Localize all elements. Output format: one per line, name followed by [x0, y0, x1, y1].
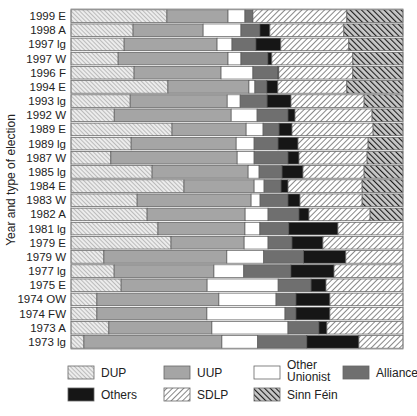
bar-segment-sf [349, 38, 403, 51]
bar-segment-ou [228, 10, 245, 23]
bar-segment-dup [71, 321, 109, 334]
legend-item-ou: OtherUnionist [254, 358, 331, 384]
bar-segment-sf [372, 109, 403, 122]
bar-segment-others [291, 265, 334, 278]
bar-segment-others [289, 222, 338, 235]
bar-segment-alliance [260, 194, 288, 207]
bar-segment-sdlp [346, 251, 403, 264]
bar-segment-alliance [240, 95, 267, 108]
bar-segment-dup [71, 151, 111, 164]
bar-segment-sf [364, 166, 403, 179]
bar-segment-uup [147, 208, 245, 221]
legend-swatch-alliance [343, 366, 369, 379]
bar-segment-dup [71, 24, 133, 37]
category-label: 1992 W [26, 109, 66, 121]
bar-segment-sdlp [298, 137, 368, 150]
bar-segment-sdlp [292, 123, 373, 136]
bar-segment-uup [114, 109, 231, 122]
bar-segment-dup [71, 279, 121, 292]
bar-segment-ou [203, 24, 241, 37]
legend-label: Unionist [287, 370, 331, 384]
bar-segment-ou [246, 123, 263, 136]
bar-segment-sf [373, 123, 403, 136]
bar-segment-uup [172, 123, 246, 136]
bar-segment-dup [71, 123, 172, 136]
legend-label: Sinn Féin [287, 388, 338, 402]
bar-segment-others [260, 24, 270, 37]
bar-segment-ou [228, 52, 241, 65]
bar-segment-alliance [254, 151, 288, 164]
bar-segment-dup [71, 10, 167, 23]
bar-segment-alliance [268, 236, 292, 249]
bar-segment-others [267, 95, 291, 108]
bar-segment-others [296, 293, 330, 306]
bar-segment-uup [133, 24, 203, 37]
bar-segment-dup [71, 81, 168, 94]
bar-segment-ou [207, 307, 285, 320]
category-label: 1989 lg [28, 138, 66, 150]
bar-segment-sdlp [288, 180, 362, 193]
bar-segment-uup [97, 307, 207, 320]
bar-segment-uup [134, 66, 221, 79]
legend-swatch-sdlp [164, 388, 190, 401]
category-label: 1979 E [30, 237, 67, 249]
legend-label: Others [101, 388, 137, 402]
bar-segment-dup [71, 109, 114, 122]
bar-segment-ou [254, 180, 264, 193]
bar-segment-alliance [253, 66, 278, 79]
bars-group [71, 10, 403, 348]
category-label: 1975 E [30, 279, 67, 291]
legend-item-dup: DUP [68, 366, 126, 380]
bar-segment-sdlp [291, 95, 364, 108]
bar-segment-ou [244, 236, 268, 249]
bar-segment-alliance [263, 123, 279, 136]
bar-segment-others [267, 81, 278, 94]
bar-segment-alliance [268, 208, 299, 221]
bar-segment-others [279, 123, 292, 136]
bar-segment-dup [71, 194, 137, 207]
category-label: 1982 A [30, 208, 66, 220]
bar-segment-uup [114, 265, 214, 278]
legend-item-sf: Sinn Féin [254, 388, 338, 402]
category-label: 1984 E [30, 180, 67, 192]
bar-segment-sdlp [309, 208, 370, 221]
bar-segment-sf [344, 24, 403, 37]
bar-segment-sdlp [323, 236, 403, 249]
bar-segment-uup [124, 38, 217, 51]
bar-segment-sdlp [359, 336, 403, 349]
bar-segment-ou [221, 66, 253, 79]
category-label: 1973 lg [28, 336, 66, 348]
bar-segment-dup [71, 180, 184, 193]
bar-segment-ou [207, 279, 278, 292]
bar-segment-sdlp [279, 66, 353, 79]
bar-segment-others [307, 336, 359, 349]
category-label: 1997 lg [28, 38, 66, 50]
bar-segment-alliance [276, 293, 296, 306]
bar-segment-ou [212, 321, 288, 334]
category-label: 1989 E [30, 123, 67, 135]
bar-segment-ou [249, 81, 255, 94]
category-label: 1979 W [26, 251, 66, 263]
bar-segment-dup [71, 38, 124, 51]
bar-segment-alliance [260, 222, 289, 235]
bar-segment-alliance [264, 251, 304, 264]
bar-segment-dup [71, 52, 118, 65]
bar-segment-sf [362, 180, 403, 193]
category-label: 1985 lg [28, 166, 66, 178]
legend-swatch-sf [254, 388, 280, 401]
bar-segment-alliance [241, 52, 268, 65]
bar-segment-uup [121, 279, 207, 292]
bar-segment-others [256, 38, 281, 51]
bar-segment-ou [214, 265, 244, 278]
legend-swatch-dup [68, 366, 94, 379]
bar-segment-ou [231, 109, 257, 122]
category-label: 1974 FW [19, 308, 66, 320]
bar-segment-uup [184, 180, 254, 193]
bar-segment-dup [71, 95, 130, 108]
bar-segment-ou [227, 251, 264, 264]
legend-label: UUP [197, 366, 222, 380]
category-label: 1974 OW [17, 293, 66, 305]
bar-segment-uup [130, 95, 227, 108]
legend-label: SDLP [197, 388, 228, 402]
legend-label: DUP [101, 366, 126, 380]
